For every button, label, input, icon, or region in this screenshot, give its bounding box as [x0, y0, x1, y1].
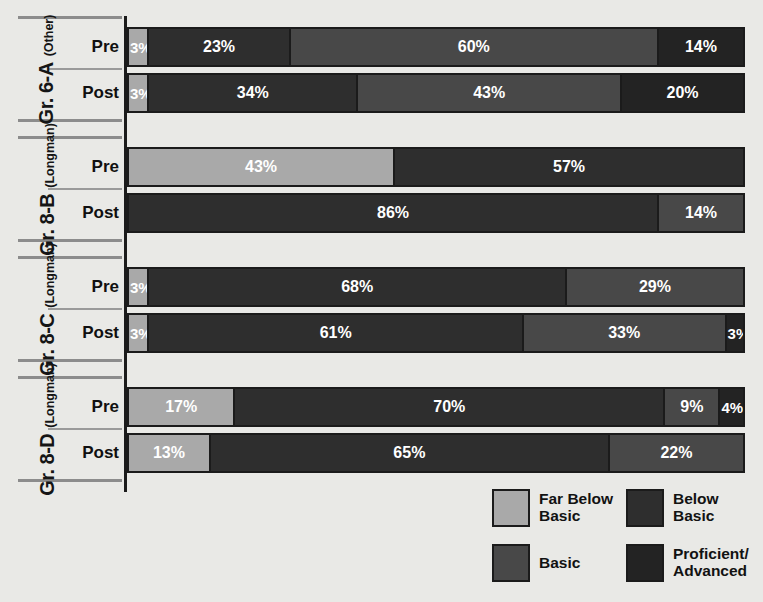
chart-group: Gr. 8-B(Longman)Pre43%57%Post86%14%	[0, 136, 763, 242]
stacked-bar: 43%57%	[127, 147, 745, 187]
bar-segment: 17%	[129, 389, 233, 425]
bar-segment: 14%	[657, 195, 743, 231]
legend-item[interactable]: Far Below Basic	[492, 489, 613, 527]
bar-row-label: Pre	[76, 145, 122, 189]
bar-row: Pre3%68%29%	[0, 265, 763, 309]
stacked-bar: 3%68%29%	[127, 267, 745, 307]
bar-segment: 4%	[718, 389, 743, 425]
chart-group: Gr. 6-A(Other)Pre3%23%60%14%Post3%34%43%…	[0, 16, 763, 122]
legend-swatch-far-below-basic	[492, 489, 530, 527]
legend-label: Basic	[539, 544, 580, 571]
stacked-bar: 17%70%9%4%	[127, 387, 745, 427]
bar-segment: 3%	[725, 315, 743, 351]
bar-segment: 57%	[393, 149, 743, 185]
legend-swatch-basic	[492, 544, 530, 582]
stacked-bar-chart: Gr. 6-A(Other)Pre3%23%60%14%Post3%34%43%…	[0, 0, 763, 492]
chart-page: Gr. 6-A(Other)Pre3%23%60%14%Post3%34%43%…	[0, 0, 763, 602]
legend-label: Far Below Basic	[539, 489, 613, 524]
bar-segment: 70%	[233, 389, 663, 425]
bar-segment: 61%	[147, 315, 522, 351]
bar-segment: 14%	[657, 29, 743, 65]
stacked-bar: 3%61%33%3%	[127, 313, 745, 353]
legend-item[interactable]: Proficient/ Advanced	[626, 544, 749, 582]
bar-row: Pre3%23%60%14%	[0, 25, 763, 69]
bar-row-label: Pre	[76, 25, 122, 69]
bar-segment: 65%	[209, 435, 608, 471]
bar-segment: 3%	[129, 315, 147, 351]
bar-segment: 43%	[129, 149, 393, 185]
bar-row: Post86%14%	[0, 191, 763, 235]
legend-label: Below Basic	[673, 489, 719, 524]
bar-segment: 3%	[129, 29, 147, 65]
bar-row-label: Pre	[76, 385, 122, 429]
bar-segment: 29%	[565, 269, 743, 305]
bar-segment: 34%	[147, 75, 356, 111]
legend-item[interactable]: Basic	[492, 544, 580, 582]
legend-swatch-below-basic	[626, 489, 664, 527]
stacked-bar: 86%14%	[127, 193, 745, 233]
bar-row: Post13%65%22%	[0, 431, 763, 475]
chart-group: Gr. 8-C(Longman)Pre3%68%29%Post3%61%33%3…	[0, 256, 763, 362]
chart-legend: Far Below BasicBelow BasicBasicProficien…	[492, 489, 754, 597]
chart-group: Gr. 8-D(Longman)Pre17%70%9%4%Post13%65%2…	[0, 376, 763, 482]
bar-row-label: Post	[76, 311, 122, 355]
bar-row: Pre17%70%9%4%	[0, 385, 763, 429]
bar-segment: 60%	[289, 29, 657, 65]
bar-row: Post3%61%33%3%	[0, 311, 763, 355]
bar-row: Pre43%57%	[0, 145, 763, 189]
stacked-bar: 3%23%60%14%	[127, 27, 745, 67]
bar-row-label: Post	[76, 191, 122, 235]
legend-label: Proficient/ Advanced	[673, 544, 749, 579]
bar-row-label: Post	[76, 71, 122, 115]
bar-segment: 33%	[522, 315, 725, 351]
bar-segment: 86%	[129, 195, 657, 231]
bar-segment: 13%	[129, 435, 209, 471]
bar-segment: 9%	[663, 389, 718, 425]
bar-row-label: Post	[76, 431, 122, 475]
bar-segment: 23%	[147, 29, 288, 65]
bar-row: Post3%34%43%20%	[0, 71, 763, 115]
bar-segment: 3%	[129, 269, 147, 305]
bar-segment: 43%	[356, 75, 620, 111]
stacked-bar: 13%65%22%	[127, 433, 745, 473]
legend-swatch-proficient-advanced	[626, 544, 664, 582]
bar-segment: 22%	[608, 435, 743, 471]
bar-segment: 20%	[620, 75, 743, 111]
bar-segment: 68%	[147, 269, 565, 305]
bar-row-label: Pre	[76, 265, 122, 309]
legend-item[interactable]: Below Basic	[626, 489, 719, 527]
bar-segment: 3%	[129, 75, 147, 111]
stacked-bar: 3%34%43%20%	[127, 73, 745, 113]
